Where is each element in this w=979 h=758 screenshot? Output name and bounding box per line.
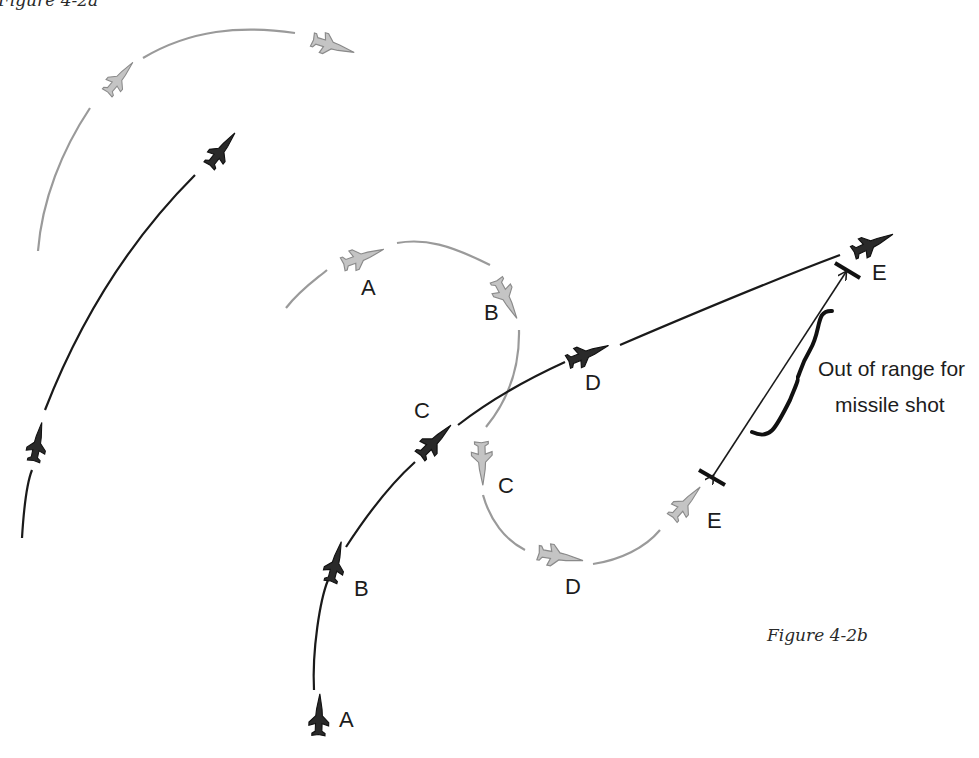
gray-track-segment xyxy=(397,241,490,265)
gray-track-segment xyxy=(286,270,327,308)
black-arc-upper xyxy=(22,470,32,538)
gray-arc-upper-2 xyxy=(143,30,295,58)
gray-label-c: C xyxy=(498,473,514,498)
gray-jet-icon xyxy=(100,56,140,99)
black-label-b: B xyxy=(354,576,369,601)
figure-caption: Figure 4-2b xyxy=(766,625,868,645)
black-label-d: D xyxy=(585,370,601,395)
gray-label-e: E xyxy=(707,508,722,533)
gray-label-d: D xyxy=(565,574,581,599)
black-jet-icon-c xyxy=(413,418,459,464)
gray-label-a: A xyxy=(361,275,376,300)
gray-track: A B C D E xyxy=(286,240,722,599)
maneuver-diagram: Figure 4-2a xyxy=(0,0,979,758)
black-track: A B C D E xyxy=(308,225,897,736)
black-label-e: E xyxy=(872,260,887,285)
black-track-segment xyxy=(314,580,328,690)
black-jet-icon-a xyxy=(308,693,329,735)
gray-jet-icon xyxy=(309,30,357,63)
black-jet-icon-e xyxy=(849,225,897,262)
gray-label-b: B xyxy=(484,300,499,325)
black-arc-upper-2 xyxy=(45,175,195,410)
black-track-segment xyxy=(346,462,415,547)
gray-track-segment xyxy=(593,530,660,564)
range-indicator: Out of range for missile shot xyxy=(699,263,965,485)
black-track-segment xyxy=(458,362,565,425)
range-bar-icon-bottom xyxy=(699,470,725,485)
gray-track-segment xyxy=(486,330,519,427)
gray-jet-icon-a xyxy=(339,240,387,274)
upper-left-panel xyxy=(22,30,357,538)
black-label-a: A xyxy=(339,707,354,732)
gray-arc-upper xyxy=(38,108,90,251)
gray-jet-icon-e xyxy=(665,480,708,524)
black-jet-icon xyxy=(24,420,51,463)
black-jet-icon-d xyxy=(564,336,612,372)
range-note-line2: missile shot xyxy=(835,393,945,416)
range-bar-icon-top xyxy=(835,263,860,278)
previous-figure-caption-fragment: Figure 4-2a xyxy=(0,0,98,10)
gray-track-segment xyxy=(483,495,525,550)
black-label-c: C xyxy=(414,398,430,423)
gray-jet-icon-d xyxy=(536,542,585,571)
range-note-line1: Out of range for xyxy=(818,357,965,380)
black-jet-icon xyxy=(201,127,242,172)
gray-jet-icon-c xyxy=(471,441,493,485)
